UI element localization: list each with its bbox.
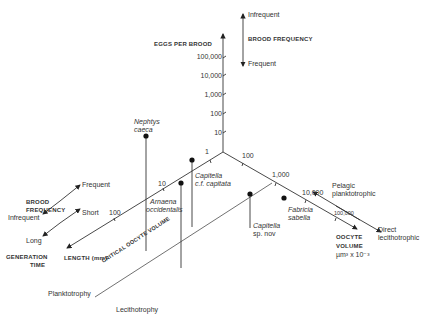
species-point-fabricia (281, 195, 286, 200)
length-tick-100: 100 (109, 209, 121, 217)
species-capitella-spnov-1: Capitella (253, 222, 280, 230)
gen-title-2: TIME (30, 261, 45, 269)
oocyte-title-1: OOCYTE (336, 233, 363, 241)
species-point-capitella-spnov (247, 191, 252, 196)
gen-title-1: GENERATION (6, 253, 48, 261)
length-tick-10: 10 (158, 180, 166, 188)
oocyte-title-2: VOLUME (336, 242, 363, 250)
length-tick-1: 1 (205, 148, 209, 156)
oocyte-tick-100: 100 (242, 152, 254, 160)
species-point-capitella-capitata (189, 157, 194, 162)
species-nephtys-2: caeca (134, 126, 153, 134)
species-fabricia-1: Fabricia (288, 206, 313, 214)
species-point-arnaena (178, 180, 183, 185)
lecithotrophy-label: Lecithotrophy (116, 306, 158, 314)
eggs-tick-10: 10 (180, 129, 222, 137)
species-nephtys-1: Nephtys (134, 118, 160, 126)
planktotrophy-label: Planktotrophy (48, 290, 91, 298)
gen-long: Long (26, 237, 42, 245)
dev-direct-1: Direct (378, 226, 396, 234)
diagram-canvas (0, 0, 426, 320)
oocyte-title-3: µm³ x 10⁻³ (336, 251, 370, 259)
brood-left-infrequent: Infrequent (8, 214, 40, 222)
species-arnaena-1: Arnaena (150, 198, 176, 206)
eggs-tick-100: 100 (180, 110, 222, 118)
brood-top-infrequent: Infrequent (248, 11, 280, 19)
eggs-tick-100000: 100,000 (180, 53, 222, 61)
gen-short: Short (82, 209, 99, 217)
species-point-nephtys (143, 133, 148, 138)
brood-left-title-2: FREQUENCY (26, 206, 65, 214)
eggs-tick-1000: 1,000 (180, 91, 222, 99)
species-arnaena-2: occidentalis (146, 206, 183, 214)
oocyte-tick-100000: 100,000 (334, 209, 354, 217)
brood-top-frequent: Frequent (248, 60, 276, 68)
oocyte-tick-10000: 10,000 (302, 189, 323, 197)
species-capitella-spnov-2: sp. nov (253, 230, 276, 238)
species-capitella-1: Capitella (195, 172, 222, 180)
species-fabricia-2: sabella (288, 214, 310, 222)
critical-oocyte-line (95, 183, 272, 297)
brood-left-frequent: Frequent (82, 181, 110, 189)
species-capitella-2: c.f. capitata (195, 180, 231, 188)
brood-left-title-1: BROOD (26, 198, 49, 206)
dev-direct-2: lecithotrophic (378, 234, 419, 242)
dev-pelagic-2: planktotrophic (332, 190, 376, 198)
dev-pelagic-1: Pelagic (332, 182, 355, 190)
eggs-axis-title: EGGS PER BROOD (154, 40, 212, 48)
brood-top-title: BROOD FREQUENCY (248, 35, 313, 43)
eggs-tick-10000: 10,000 (180, 72, 222, 80)
oocyte-tick-1000: 1,000 (272, 171, 290, 179)
